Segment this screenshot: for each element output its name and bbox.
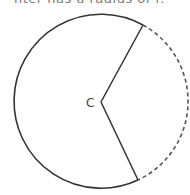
radius-lower <box>101 102 138 180</box>
radius-upper <box>101 25 143 102</box>
minor-arc-dashed <box>138 25 188 180</box>
center-label: C <box>86 96 94 110</box>
major-arc-solid <box>14 14 143 188</box>
circle-diagram: C <box>0 0 190 195</box>
